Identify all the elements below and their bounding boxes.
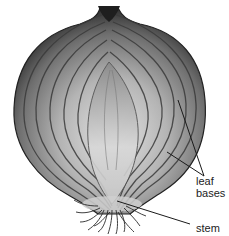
leaf-bases-label: leaf bases [196,175,229,199]
stem-label: stem [196,222,220,234]
leaf-bases-label-line1: leaf [196,175,229,187]
leaf-bases-label-line2: bases [196,187,229,199]
onion-diagram [0,0,229,236]
